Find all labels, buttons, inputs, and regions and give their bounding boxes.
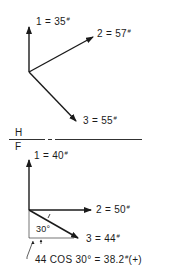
pound-unit: #	[116, 233, 120, 239]
label-text: 1 = 35	[36, 16, 66, 27]
top-vector-1-label: 1 = 35#	[36, 16, 70, 27]
label-text: 1 = 40	[34, 150, 64, 161]
label-text: 3 = 44	[86, 233, 116, 244]
component-note: 44 COS 30° = 38.2#(+)	[35, 254, 142, 265]
top-vector-2-label: 2 = 57#	[97, 28, 131, 39]
bottom-vector-1-label: 1 = 40#	[34, 150, 68, 161]
pound-unit: #	[127, 28, 131, 34]
fold-label-h: H	[15, 128, 23, 138]
fold-label-f: F	[15, 142, 21, 152]
bottom-vector-3-label: 3 = 44#	[86, 233, 120, 244]
top-vector-3-arrow	[29, 72, 76, 121]
label-text: 3 = 55	[83, 115, 113, 126]
top-vector-diagram	[29, 27, 93, 121]
label-text: 2 = 57	[97, 28, 127, 39]
top-vector-3-label: 3 = 55#	[83, 115, 117, 126]
label-text: 2 = 50	[96, 204, 126, 215]
pound-unit: #	[126, 204, 130, 210]
angle-label: 30°	[36, 225, 51, 234]
sign-indicator: (+)	[129, 254, 142, 265]
pound-unit: #	[66, 16, 70, 22]
component-note-text: 44 COS 30° = 38.2	[35, 254, 124, 265]
bottom-vector-diagram	[27, 160, 91, 259]
angle-tick-mark	[48, 214, 50, 218]
bottom-vector-2-label: 2 = 50#	[96, 204, 130, 215]
top-vector-2-arrow	[29, 37, 93, 72]
pound-unit: #	[113, 115, 117, 121]
pound-unit: #	[64, 150, 68, 156]
